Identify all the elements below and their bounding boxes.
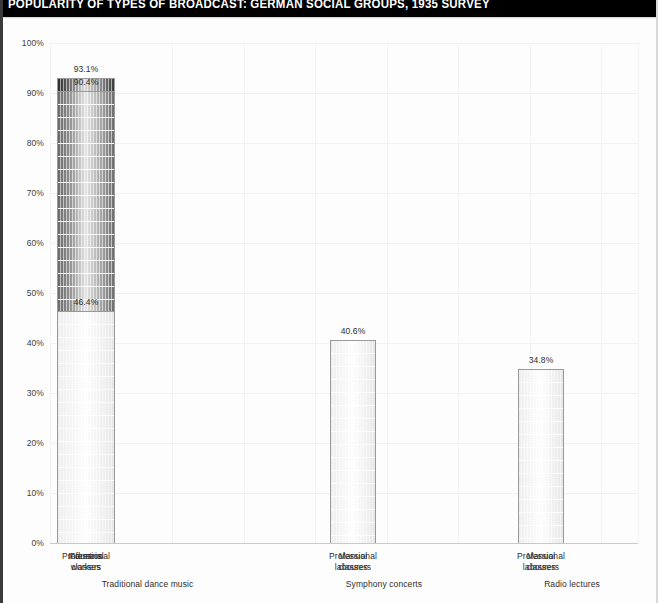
page-edge-left	[0, 0, 3, 603]
gridline-50	[50, 293, 638, 294]
gridline-90	[50, 93, 638, 94]
bar-value-label: 90.4%	[57, 77, 115, 87]
group-label: Radio lectures	[488, 579, 656, 589]
category-label-line: classes	[504, 562, 578, 573]
bar-value-label: 40.6%	[330, 326, 376, 336]
y-tick-label: 60%	[6, 238, 44, 248]
bar	[518, 369, 564, 543]
y-tick-label: 30%	[6, 388, 44, 398]
chart-page: POPULARITY OF TYPES OF BROADCAST: GERMAN…	[0, 0, 658, 603]
category-label: Professionalclasses	[316, 551, 390, 573]
y-tick-label: 70%	[6, 188, 44, 198]
y-tick-label: 10%	[6, 488, 44, 498]
bar-texture-horizontal	[519, 370, 563, 543]
gridline-0	[50, 543, 638, 544]
plot-area: 0%10%20%30%40%50%60%70%80%90%100% 93.1%9…	[50, 43, 638, 543]
gridline-vertical	[638, 43, 639, 543]
y-tick-label: 50%	[6, 288, 44, 298]
category-label-line: Professional	[43, 551, 129, 562]
gridline-100	[50, 43, 638, 44]
bar-value-label: 93.1%	[57, 64, 115, 74]
bar-value-label: 34.8%	[518, 355, 564, 365]
y-tick-label: 0%	[6, 538, 44, 548]
chart-title-banner: POPULARITY OF TYPES OF BROADCAST: GERMAN…	[0, 0, 658, 17]
category-label: Professionalclasses	[43, 551, 129, 573]
y-tick-label: 40%	[6, 338, 44, 348]
category-label-line: classes	[316, 562, 390, 573]
y-tick-label: 100%	[6, 38, 44, 48]
y-tick-label: 80%	[6, 138, 44, 148]
y-tick-label: 90%	[6, 88, 44, 98]
bar	[330, 340, 376, 543]
gridline-70	[50, 193, 638, 194]
gridline-vertical	[387, 43, 388, 543]
bar	[57, 311, 115, 543]
gridline-80	[50, 143, 638, 144]
gridline-vertical	[244, 43, 245, 543]
group-label: Traditional dance music	[27, 579, 268, 589]
gridline-vertical	[50, 43, 51, 543]
category-label: Professionalclasses	[504, 551, 578, 573]
banner-shadow	[0, 17, 658, 19]
gridline-vertical	[315, 43, 316, 543]
bar-texture-horizontal	[331, 341, 375, 543]
gridline-vertical	[458, 43, 459, 543]
gridline-vertical	[601, 43, 602, 543]
y-tick-label: 20%	[6, 438, 44, 448]
bar-value-label: 46.4%	[57, 297, 115, 307]
gridline-60	[50, 243, 638, 244]
page-title: POPULARITY OF TYPES OF BROADCAST: GERMAN…	[8, 0, 490, 10]
group-label: Symphony concerts	[300, 579, 468, 589]
gridline-vertical	[172, 43, 173, 543]
category-label-line: Professional	[316, 551, 390, 562]
bar-texture-horizontal	[58, 312, 114, 543]
category-label-line: classes	[43, 562, 129, 573]
category-label-line: Professional	[504, 551, 578, 562]
